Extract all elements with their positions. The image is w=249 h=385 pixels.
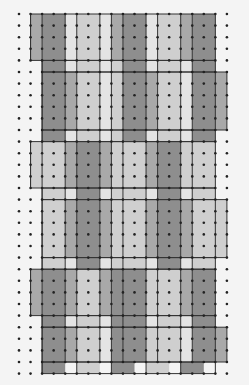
grid-dot bbox=[145, 106, 148, 109]
grid-dot bbox=[52, 314, 55, 317]
grid-dot bbox=[179, 291, 182, 294]
grid-dot bbox=[156, 198, 159, 201]
grid-dot bbox=[75, 187, 78, 190]
grid-dot bbox=[18, 24, 21, 27]
grid-dot bbox=[156, 48, 159, 51]
tile-strip-light bbox=[146, 269, 158, 315]
grid-dot bbox=[75, 361, 78, 364]
grid-dot bbox=[18, 198, 21, 201]
grid-dot bbox=[133, 291, 136, 294]
tile-strip-pale bbox=[100, 14, 112, 60]
tile-strip-pale bbox=[65, 60, 77, 72]
grid-dot bbox=[29, 326, 32, 329]
grid-dot bbox=[226, 268, 229, 271]
grid-dot bbox=[156, 349, 159, 352]
grid-dot bbox=[179, 245, 182, 248]
grid-dot bbox=[179, 59, 182, 62]
grid-dot bbox=[179, 129, 182, 132]
tile-strip-light bbox=[111, 258, 123, 270]
grid-dot bbox=[75, 94, 78, 97]
tile-strip-pale bbox=[65, 14, 77, 60]
grid-dot bbox=[110, 291, 113, 294]
tile-strip-light bbox=[146, 327, 158, 362]
tile-strip-light bbox=[123, 188, 146, 200]
grid-dot bbox=[75, 372, 78, 375]
grid-dot bbox=[203, 372, 206, 375]
tile-strip-light bbox=[111, 60, 123, 72]
grid-dot bbox=[87, 187, 90, 190]
tile-strip-pale bbox=[181, 188, 193, 200]
grid-dot bbox=[75, 222, 78, 225]
grid-dot bbox=[18, 233, 21, 236]
grid-dot bbox=[87, 361, 90, 364]
grid-dot bbox=[52, 13, 55, 16]
tile-strip-light bbox=[192, 200, 215, 258]
grid-dot bbox=[18, 48, 21, 51]
tiling-diagram bbox=[0, 0, 249, 385]
grid-dot bbox=[99, 210, 102, 213]
grid-dot bbox=[203, 129, 206, 132]
grid-dot bbox=[156, 291, 159, 294]
grid-dot bbox=[168, 117, 171, 120]
grid-dot bbox=[87, 280, 90, 283]
tile-strip-pale bbox=[65, 130, 77, 142]
grid-dot bbox=[41, 303, 44, 306]
grid-dot bbox=[214, 291, 217, 294]
grid-dot bbox=[99, 13, 102, 16]
grid-dot bbox=[145, 82, 148, 85]
grid-dot bbox=[29, 338, 32, 341]
grid-dot bbox=[64, 59, 67, 62]
grid-dot bbox=[52, 82, 55, 85]
grid-dot bbox=[168, 13, 171, 16]
grid-dot bbox=[52, 372, 55, 375]
tile-strip-light bbox=[111, 72, 123, 130]
grid-dot bbox=[99, 245, 102, 248]
grid-dot bbox=[18, 338, 21, 341]
tile-strip-pale bbox=[65, 316, 77, 328]
grid-dot bbox=[87, 326, 90, 329]
grid-dot bbox=[18, 117, 21, 120]
tile-strip-light bbox=[123, 200, 146, 258]
grid-dot bbox=[226, 222, 229, 225]
grid-dot bbox=[18, 94, 21, 97]
tile-strip-pale bbox=[146, 130, 158, 142]
grid-dot bbox=[64, 349, 67, 352]
grid-dot bbox=[52, 268, 55, 271]
grid-dot bbox=[145, 36, 148, 39]
grid-dot bbox=[75, 280, 78, 283]
tile-strip-pale bbox=[100, 316, 112, 328]
grid-dot bbox=[156, 303, 159, 306]
grid-dot bbox=[52, 187, 55, 190]
grid-dot bbox=[75, 71, 78, 74]
grid-dot bbox=[29, 117, 32, 120]
tile-strip-light bbox=[77, 362, 100, 374]
grid-dot bbox=[99, 106, 102, 109]
grid-dot bbox=[99, 164, 102, 167]
grid-dot bbox=[191, 291, 194, 294]
grid-dot bbox=[18, 303, 21, 306]
grid-dot bbox=[99, 222, 102, 225]
grid-dot bbox=[156, 233, 159, 236]
grid-dot bbox=[133, 338, 136, 341]
grid-dot bbox=[168, 372, 171, 375]
grid-dot bbox=[41, 268, 44, 271]
grid-dot bbox=[87, 314, 90, 317]
grid-dot bbox=[191, 117, 194, 120]
grid-dot bbox=[168, 187, 171, 190]
grid-dot bbox=[29, 198, 32, 201]
grid-dot bbox=[99, 94, 102, 97]
tile-strip-pale bbox=[100, 258, 112, 270]
grid-dot bbox=[29, 187, 32, 190]
grid-dot bbox=[122, 198, 125, 201]
grid-dot bbox=[214, 338, 217, 341]
grid-dot bbox=[29, 233, 32, 236]
grid-dot bbox=[87, 338, 90, 341]
grid-dot bbox=[110, 303, 113, 306]
grid-dot bbox=[122, 349, 125, 352]
tile-strip-light bbox=[77, 72, 100, 130]
tile-strip-light bbox=[192, 258, 215, 270]
grid-dot bbox=[179, 326, 182, 329]
tile-strip-dark bbox=[192, 72, 215, 130]
grid-dot bbox=[226, 175, 229, 178]
grid-dot bbox=[87, 233, 90, 236]
